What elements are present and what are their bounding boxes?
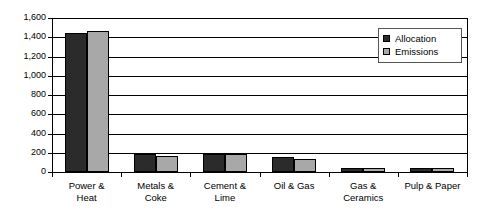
- bar-group: [203, 18, 247, 172]
- gridline: [52, 76, 467, 77]
- x-cat-label: Gas &Ceramics: [329, 180, 398, 204]
- chart-legend: AllocationEmissions: [378, 28, 462, 63]
- x-cat-label-line: Pulp & Paper: [398, 180, 467, 192]
- legend-item[interactable]: Allocation: [383, 32, 457, 45]
- y-tick-label: 1,400: [0, 32, 46, 41]
- bar-emissions[interactable]: [225, 154, 247, 172]
- legend-label: Allocation: [395, 33, 436, 44]
- x-cat-label: Oil & Gas: [260, 180, 329, 192]
- bar-group: [272, 18, 316, 172]
- bar-group: [134, 18, 178, 172]
- bar-emissions[interactable]: [87, 31, 109, 172]
- bar-emissions[interactable]: [156, 156, 178, 172]
- x-cat-label: Power &Heat: [52, 180, 121, 204]
- y-tick-label: 1,200: [0, 52, 46, 61]
- bar-emissions[interactable]: [294, 159, 316, 172]
- y-tick-label: 800: [0, 90, 46, 99]
- x-tick-mark: [190, 172, 191, 177]
- plot-right-border: [467, 18, 468, 173]
- x-cat-label-line: Lime: [190, 192, 259, 204]
- x-tick-mark: [329, 172, 330, 177]
- x-cat-label-line: Gas &: [329, 180, 398, 192]
- y-axis-line: [52, 18, 53, 173]
- bar-chart: 1,6001,4001,2001,0008006004002000 Power …: [0, 0, 486, 218]
- x-cat-label-line: Cement &: [190, 180, 259, 192]
- y-axis-labels: 1,6001,4001,2001,0008006004002000: [0, 0, 48, 218]
- x-tick-mark: [398, 172, 399, 177]
- x-axis-labels: Power &HeatMetals &CokeCement &LimeOil &…: [52, 180, 468, 218]
- y-tick-label: 1,000: [0, 71, 46, 80]
- bar-allocation[interactable]: [65, 33, 87, 172]
- y-tick-label: 200: [0, 148, 46, 157]
- x-cat-label: Metals &Coke: [121, 180, 190, 204]
- x-cat-label-line: Oil & Gas: [260, 180, 329, 192]
- x-cat-label: Cement &Lime: [190, 180, 259, 204]
- gridline: [52, 114, 467, 115]
- bar-allocation[interactable]: [134, 154, 156, 172]
- x-cat-label-line: Coke: [121, 192, 190, 204]
- bar-allocation[interactable]: [272, 157, 294, 172]
- y-tick-label: 600: [0, 109, 46, 118]
- legend-label: Emissions: [395, 46, 438, 57]
- x-tick-mark: [467, 172, 468, 177]
- legend-swatch-icon: [383, 35, 390, 42]
- x-axis-ticks: [52, 172, 468, 178]
- y-tick-label: 400: [0, 129, 46, 138]
- gridline: [52, 134, 467, 135]
- x-cat-label: Pulp & Paper: [398, 180, 467, 192]
- bar-allocation[interactable]: [203, 154, 225, 172]
- x-cat-label-line: Heat: [52, 192, 121, 204]
- x-tick-mark: [121, 172, 122, 177]
- gridline: [52, 95, 467, 96]
- y-tick-label: 0: [0, 167, 46, 176]
- legend-swatch-icon: [383, 48, 390, 55]
- x-cat-label-line: Metals &: [121, 180, 190, 192]
- gridline: [52, 153, 467, 154]
- x-cat-label-line: Power &: [52, 180, 121, 192]
- x-tick-mark: [260, 172, 261, 177]
- bar-group: [65, 18, 109, 172]
- x-cat-label-line: Ceramics: [329, 192, 398, 204]
- legend-item[interactable]: Emissions: [383, 45, 457, 58]
- x-tick-mark: [52, 172, 53, 177]
- gridline: [52, 18, 467, 19]
- y-tick-label: 1,600: [0, 13, 46, 22]
